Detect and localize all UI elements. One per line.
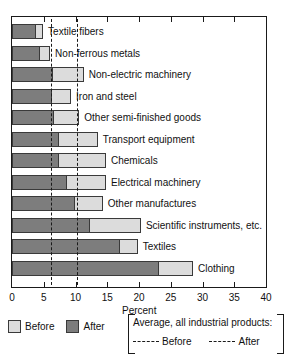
bar-category-label: Clothing <box>198 261 235 276</box>
bar-before-segment <box>12 67 84 82</box>
bar-category-label: Scientific instruments, etc. <box>146 218 262 233</box>
bar-after-segment <box>13 240 120 253</box>
x-axis-tick-label: 35 <box>222 292 246 303</box>
average-legend-title: Average, all industrial products: <box>133 317 272 328</box>
bar-before-segment <box>12 132 98 147</box>
legend-label-before: Before <box>25 321 54 332</box>
bar-after-segment <box>13 262 159 275</box>
bar-category-label: Non-ferrous metals <box>55 46 140 61</box>
bar-category-label: Transport equipment <box>103 132 195 147</box>
bar-row: Clothing <box>12 261 266 276</box>
bar-row: Non-ferrous metals <box>12 46 266 61</box>
bar-before-segment <box>12 261 193 276</box>
bracket-corner-bottom-icon <box>277 353 284 354</box>
bar-before-segment <box>12 153 106 168</box>
x-axis-tick-label: 0 <box>0 292 24 303</box>
bar-row: Non-electric machinery <box>12 67 266 82</box>
bar-row: Electrical machinery <box>12 175 266 190</box>
bar-category-label: Textiles <box>143 239 176 254</box>
x-axis-tick-label: 25 <box>159 292 183 303</box>
bar-category-label: Iron and steel <box>76 89 137 104</box>
bracket-corner-top-icon <box>277 314 284 315</box>
bar-before-segment <box>12 110 79 125</box>
bar-after-segment <box>13 133 59 146</box>
bar-after-segment <box>13 176 67 189</box>
x-axis-tick-bottom <box>234 282 235 287</box>
x-axis-tick-bottom <box>139 282 140 287</box>
bar-after-segment <box>13 90 52 103</box>
bar-row: Transport equipment <box>12 132 266 147</box>
bar-before-segment <box>12 89 71 104</box>
bar-row: Textiles <box>12 239 266 254</box>
x-axis-tick-top <box>76 17 77 22</box>
x-axis-tick-top <box>234 17 235 22</box>
x-axis-tick-label: 40 <box>254 292 278 303</box>
bar-after-segment <box>13 111 54 124</box>
bar-category-label: Chemicals <box>111 153 158 168</box>
average-legend-box: Average, all industrial products: Before… <box>128 314 284 354</box>
x-axis-tick-label: 20 <box>127 292 151 303</box>
legend-swatch-after-icon <box>66 320 79 333</box>
x-axis-tick-top <box>203 17 204 22</box>
long-dash-line-icon <box>133 341 159 342</box>
bar-after-segment <box>13 25 36 38</box>
x-axis-tick-label: 10 <box>64 292 88 303</box>
bar-row: Iron and steel <box>12 89 266 104</box>
x-axis-tick-top <box>107 17 108 22</box>
average-legend-entry-before: Before <box>133 336 191 347</box>
bar-before-segment <box>12 196 103 211</box>
legend-swatch-before-icon <box>8 320 21 333</box>
x-axis-tick-label: 15 <box>95 292 119 303</box>
x-axis-tick-bottom <box>171 282 172 287</box>
bar-after-segment <box>13 154 59 167</box>
bar-before-segment <box>12 24 43 39</box>
x-axis-tick-bottom <box>203 282 204 287</box>
bar-category-label: Textile fibers <box>48 24 104 39</box>
short-dash-line-icon <box>209 341 235 342</box>
bar-category-label: Other semi-finished goods <box>84 110 201 125</box>
legend-label-after: After <box>83 321 104 332</box>
x-axis-tick-label: 5 <box>32 292 56 303</box>
bar-row: Textile fibers <box>12 24 266 39</box>
x-axis-tick-top <box>139 17 140 22</box>
chart-container: Textile fibersNon-ferrous metalsNon-elec… <box>0 0 290 358</box>
legend-swatches: Before After <box>8 320 113 333</box>
bar-before-segment <box>12 175 106 190</box>
x-axis-tick-bottom <box>44 282 45 287</box>
average-legend-items: Before After <box>133 336 281 347</box>
bar-category-label: Other manufactures <box>108 196 196 211</box>
x-axis-tick-top <box>44 17 45 22</box>
bar-row: Other semi-finished goods <box>12 110 266 125</box>
average-legend-label-before: Before <box>162 336 191 347</box>
plot-area: Textile fibersNon-ferrous metalsNon-elec… <box>12 17 266 287</box>
x-axis-tick-bottom <box>107 282 108 287</box>
bar-row: Other manufactures <box>12 196 266 211</box>
bar-after-segment <box>13 47 40 60</box>
average-line-before <box>51 19 52 285</box>
bar-before-segment <box>12 239 138 254</box>
average-legend-label-after: After <box>238 336 259 347</box>
x-axis-tick-top <box>171 17 172 22</box>
x-axis-tick-label: 30 <box>191 292 215 303</box>
x-axis-tick-bottom <box>76 282 77 287</box>
plot-frame: Textile fibersNon-ferrous metalsNon-elec… <box>11 16 267 288</box>
bar-category-label: Non-electric machinery <box>89 67 191 82</box>
bar-category-label: Electrical machinery <box>111 175 200 190</box>
bar-before-segment <box>12 46 50 61</box>
average-line-after <box>77 19 78 285</box>
bar-after-segment <box>13 197 75 210</box>
bar-after-segment <box>13 68 53 81</box>
average-legend-entry-after: After <box>209 336 259 347</box>
bar-row: Scientific instruments, etc. <box>12 218 266 233</box>
bar-row: Chemicals <box>12 153 266 168</box>
